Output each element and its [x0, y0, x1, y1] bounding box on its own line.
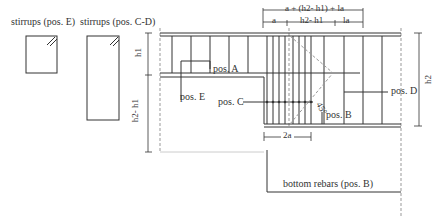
dim-bottom-2a: 2a [281, 131, 294, 140]
pos-c-label: pos. C [218, 97, 244, 107]
stirrups-e-label: stirrups (pos. E) [11, 17, 75, 27]
pos-e-label: pos. E [180, 92, 205, 102]
dim-left-h2h1: h2- h1 [131, 99, 140, 122]
pos-d-label: pos. D [391, 86, 417, 96]
dim-left-h1: h1 [134, 48, 143, 57]
dim-top-total: a + (h2- h1) + la [285, 4, 344, 13]
pos-a-label: pos. A [213, 64, 239, 74]
dim-top-a: a [272, 16, 276, 25]
pos-b-label: pos. B [326, 110, 352, 120]
bottom-rebars-label: bottom rebars (pos. B) [283, 179, 373, 189]
dim-top-h2h1: h2- h1 [300, 16, 323, 25]
right-dimensions [414, 33, 422, 126]
stirrups-cd-label: stirrups (pos. C-D) [80, 17, 155, 27]
left-dimensions [145, 33, 152, 152]
dim-right-h2: h2 [424, 75, 433, 84]
stirrup-e-shape [26, 36, 57, 73]
stirrup-cd-shape [87, 36, 119, 120]
dim-top-la: la [343, 16, 350, 25]
